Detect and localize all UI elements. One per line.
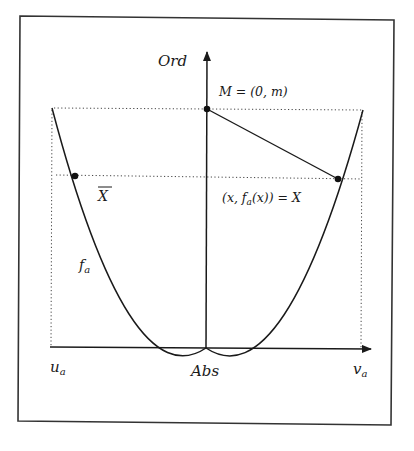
point-x-label-pre: (x, f: [222, 190, 249, 205]
point-m-label: M = (0, m): [218, 84, 288, 99]
point-xbar-label: X: [97, 188, 109, 204]
x-right-label-sub: a: [361, 368, 367, 379]
point-m: [204, 106, 211, 113]
y-axis-label: Ord: [158, 52, 187, 70]
point-x-label: (x, fa(x)) = X: [222, 190, 302, 207]
curve-label-sub: a: [84, 264, 90, 275]
x-left-label-main: u: [50, 358, 60, 376]
x-axis: [50, 347, 371, 349]
parabola-curve: [52, 108, 363, 356]
curve-label: fa: [78, 257, 90, 275]
point-x: [335, 176, 342, 183]
point-xbar: [72, 173, 79, 180]
point-x-label-post: (x)) = X: [252, 190, 302, 205]
parabola-diagram: Ord M = (0, m) (x, fa(x)) = X X fa ua Ab…: [0, 0, 414, 451]
y-axis: [206, 52, 207, 348]
x-left-label: ua: [50, 358, 66, 377]
x-axis-label: Abs: [189, 362, 219, 380]
segment-m-x: [207, 109, 338, 179]
x-right-label: va: [353, 360, 367, 379]
point-xbar-label-group: X: [97, 187, 112, 204]
x-left-label-sub: a: [60, 366, 66, 377]
